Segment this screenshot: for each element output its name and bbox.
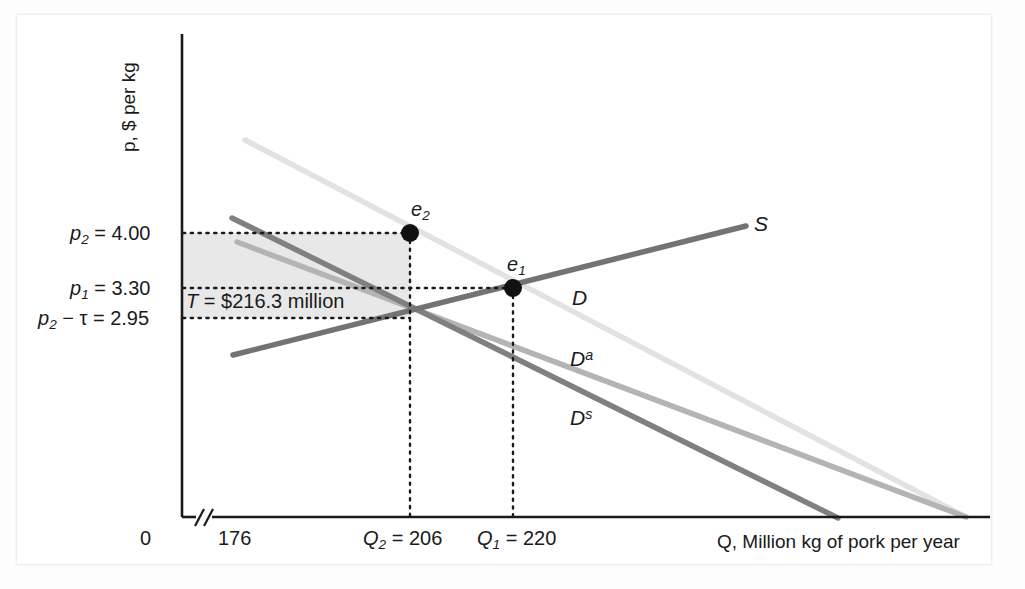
x-tick-label-q1: Q1 = 220 xyxy=(477,528,556,552)
curve-label-demand-a: Da xyxy=(570,348,593,369)
x-axis-title: Q, Million kg of pork per year xyxy=(717,532,960,551)
y-tick-label-p2-minus-tau: p2 − τ = 2.95 xyxy=(38,308,149,332)
x-tick-label-origin: 0 xyxy=(140,528,151,548)
tax-revenue-label: T = $216.3 million xyxy=(186,291,344,311)
equilibrium-point-e1[interactable] xyxy=(504,279,522,297)
curve-label-supply: S xyxy=(754,213,768,234)
axis-break-mark xyxy=(195,509,204,526)
x-tick-label-q2: Q2 = 206 xyxy=(363,528,442,552)
figure-container: p, $ per kg Q, Million kg of pork per ye… xyxy=(0,0,1025,589)
demand-curve-D xyxy=(245,140,966,517)
chart-plot-area xyxy=(0,0,1025,589)
curve-label-demand-s: Ds xyxy=(570,407,592,428)
demand-curve-Da xyxy=(237,242,966,517)
point-label-e2: e2 xyxy=(411,199,430,223)
y-axis-title-wrap: p, $ per kg xyxy=(96,36,126,156)
y-tick-label-p1: p1 = 3.30 xyxy=(70,278,150,302)
equilibrium-point-e2[interactable] xyxy=(401,224,419,242)
curve-label-demand: D xyxy=(572,287,587,308)
y-axis-title: p, $ per kg xyxy=(118,62,140,152)
demand-curve-Ds xyxy=(232,218,838,518)
y-tick-label-p2: p2 = 4.00 xyxy=(70,223,150,247)
axis-break-mark xyxy=(204,509,213,526)
x-tick-label-176: 176 xyxy=(218,528,251,548)
point-label-e1: e1 xyxy=(507,254,526,278)
